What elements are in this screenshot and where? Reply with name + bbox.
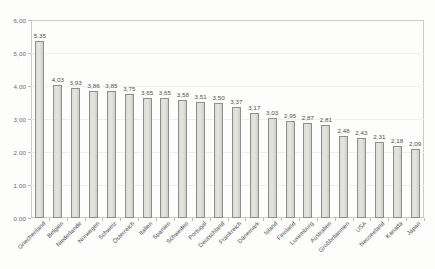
bar-slot: 3,50: [214, 20, 223, 218]
page-background: 0,001,002,003,004,005,006,00 5,354,033,9…: [0, 0, 435, 269]
bar-value-label: 3,37: [230, 98, 242, 105]
bar-value-label: 4,03: [52, 76, 64, 83]
y-axis-tick-label: 4,00: [0, 83, 26, 90]
bar: [286, 121, 295, 218]
x-axis-tick-mark: [228, 218, 229, 221]
x-axis-tick-mark: [192, 218, 193, 221]
bar-slot: 2,87: [303, 20, 312, 218]
bar-slot: 3,58: [178, 20, 187, 218]
bar-slot: 2,81: [321, 20, 330, 218]
y-axis-tick-label: 2,00: [0, 149, 26, 156]
bar: [268, 118, 277, 218]
bar: [411, 149, 420, 218]
bar-slot: 3,86: [89, 20, 98, 218]
x-axis-tick-mark: [317, 218, 318, 221]
x-axis-tick-mark: [353, 218, 354, 221]
x-axis-category-label: Griechenland: [17, 221, 47, 251]
bar: [107, 91, 116, 218]
bar: [71, 88, 80, 218]
bar-value-label: 2,18: [391, 137, 403, 144]
x-axis-tick-mark: [335, 218, 336, 221]
bar: [178, 100, 187, 218]
bar: [232, 107, 241, 218]
bars-group: 5,354,033,933,863,853,753,653,653,583,51…: [31, 20, 424, 218]
bar-slot: 3,65: [143, 20, 152, 218]
bar-slot: 2,09: [411, 20, 420, 218]
bar-chart: 0,001,002,003,004,005,006,00 5,354,033,9…: [0, 0, 435, 269]
x-axis-category-label-text: Griechenland: [17, 220, 47, 250]
bar-slot: 2,18: [393, 20, 402, 218]
bar-value-label: 2,95: [284, 112, 296, 119]
bar-slot: 5,35: [35, 20, 44, 218]
x-axis-tick-mark: [424, 218, 425, 221]
y-axis-tick-mark: [28, 218, 31, 219]
bar: [160, 98, 169, 218]
bar: [89, 91, 98, 218]
bar-slot: 3,17: [250, 20, 259, 218]
x-axis-category-label-text: Japan: [406, 220, 422, 236]
x-axis-tick-mark: [388, 218, 389, 221]
bar-value-label: 2,81: [320, 116, 332, 123]
x-axis-tick-mark: [138, 218, 139, 221]
x-axis-category-label-text: Island: [263, 220, 279, 236]
bar-slot: 4,03: [53, 20, 62, 218]
y-axis-tick-label: 6,00: [0, 17, 26, 24]
bar-slot: 3,03: [268, 20, 277, 218]
x-axis-tick-mark: [49, 218, 50, 221]
x-axis-tick-mark: [406, 218, 407, 221]
bar-value-label: 5,35: [34, 32, 46, 39]
bar: [53, 85, 62, 218]
y-axis-tick-label: 1,00: [0, 182, 26, 189]
y-axis-tick-label: 3,00: [0, 116, 26, 123]
bar: [250, 113, 259, 218]
x-axis-tick-mark: [245, 218, 246, 221]
x-axis-tick-mark: [120, 218, 121, 221]
bar: [393, 146, 402, 218]
x-axis-tick-mark: [210, 218, 211, 221]
bar-value-label: 2,43: [355, 129, 367, 136]
bar-value-label: 3,86: [87, 82, 99, 89]
bar: [35, 41, 44, 218]
bar: [214, 103, 223, 219]
bar: [321, 125, 330, 218]
bar-value-label: 3,51: [195, 93, 207, 100]
bar-value-label: 3,17: [248, 104, 260, 111]
bar: [339, 136, 348, 218]
bar-slot: 2,95: [286, 20, 295, 218]
bar-slot: 3,75: [125, 20, 134, 218]
bar-slot: 2,48: [339, 20, 348, 218]
x-axis-category-label-text: USA: [355, 220, 368, 233]
bar-slot: 2,31: [375, 20, 384, 218]
bar-value-label: 3,85: [105, 82, 117, 89]
x-axis-category-label: Kanada: [385, 221, 404, 240]
bar-slot: 3,85: [107, 20, 116, 218]
bar: [357, 138, 366, 218]
bar: [196, 102, 205, 218]
bar: [125, 94, 134, 218]
x-axis-category-label-text: Italien: [138, 220, 154, 236]
bar-value-label: 2,48: [337, 127, 349, 134]
bar: [375, 142, 384, 218]
x-axis-tick-mark: [174, 218, 175, 221]
x-axis-tick-mark: [67, 218, 68, 221]
bar-value-label: 2,09: [409, 140, 421, 147]
bar-value-label: 3,03: [266, 109, 278, 116]
bar-slot: 2,43: [357, 20, 366, 218]
bar-value-label: 3,50: [212, 94, 224, 101]
bar-slot: 3,37: [232, 20, 241, 218]
x-axis-category-label: USA: [356, 221, 369, 234]
x-axis-tick-mark: [281, 218, 282, 221]
bar-slot: 3,51: [196, 20, 205, 218]
bar: [303, 123, 312, 218]
x-axis-tick-mark: [102, 218, 103, 221]
bar-slot: 3,93: [71, 20, 80, 218]
x-axis-tick-mark: [156, 218, 157, 221]
y-axis-tick-label: 5,00: [0, 50, 26, 57]
bar-value-label: 3,75: [123, 85, 135, 92]
bar: [143, 98, 152, 218]
bar-value-label: 3,65: [159, 89, 171, 96]
y-axis-tick-label: 0,00: [0, 215, 26, 222]
bar-value-label: 3,65: [141, 89, 153, 96]
bar-value-label: 2,87: [302, 114, 314, 121]
bar-slot: 3,65: [160, 20, 169, 218]
